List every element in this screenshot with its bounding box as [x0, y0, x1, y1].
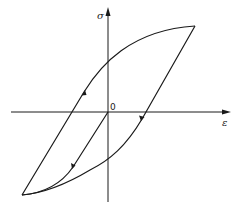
diagram-canvas: σ ε 0 [0, 0, 238, 210]
hysteresis-diagram: σ ε 0 [0, 0, 238, 210]
epsilon-axis-arrowhead-icon [222, 110, 231, 115]
epsilon-label: ε [222, 117, 227, 128]
origin-label: 0 [110, 102, 116, 112]
direction-arrow-icon [82, 90, 87, 96]
sigma-label: σ [97, 10, 105, 21]
sigma-axis-arrowhead-icon [106, 7, 111, 16]
